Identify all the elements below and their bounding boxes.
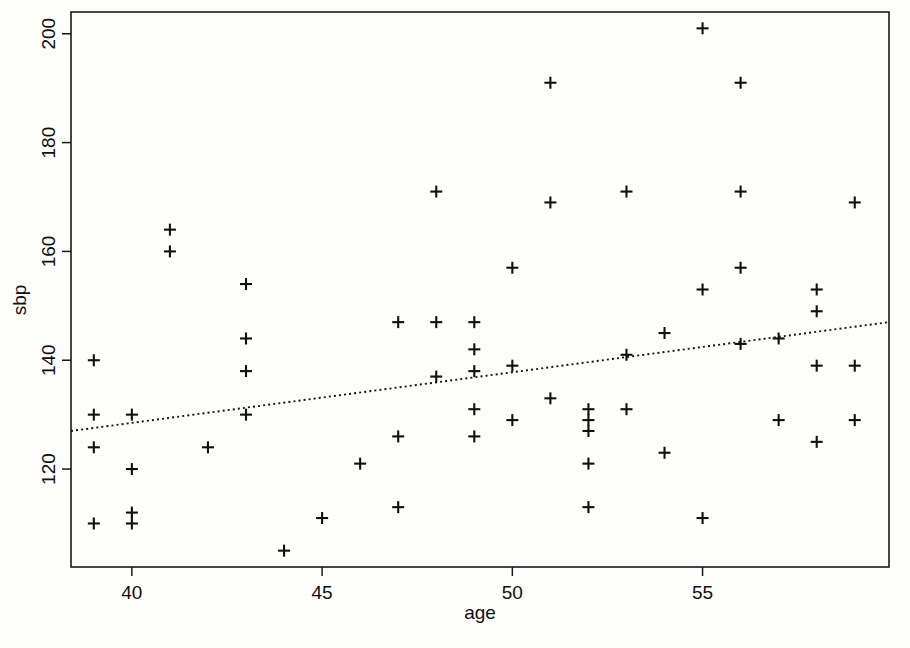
y-tick-label-120: 120 xyxy=(39,453,60,485)
data-point xyxy=(468,365,480,377)
data-point xyxy=(468,403,480,415)
data-point xyxy=(659,327,671,339)
data-point xyxy=(582,501,594,513)
data-point xyxy=(430,371,442,383)
data-point xyxy=(506,360,518,372)
data-point xyxy=(88,354,100,366)
data-point xyxy=(88,409,100,421)
plot-canvas: 40455055 120140160180200 age sbp xyxy=(0,0,910,648)
data-point xyxy=(126,409,138,421)
plot-frame xyxy=(71,12,889,567)
data-point xyxy=(88,441,100,453)
y-tick-label-160: 160 xyxy=(39,236,60,268)
data-point xyxy=(811,284,823,296)
data-point xyxy=(506,414,518,426)
x-axis-title: age xyxy=(464,602,496,623)
data-point xyxy=(468,430,480,442)
data-point xyxy=(697,284,709,296)
data-point xyxy=(164,224,176,236)
data-point xyxy=(582,414,594,426)
data-point xyxy=(544,392,556,404)
y-tick-label-200: 200 xyxy=(39,18,60,50)
data-point xyxy=(735,77,747,89)
data-point xyxy=(811,436,823,448)
data-point xyxy=(202,441,214,453)
x-axis-tick-labels: 40455055 xyxy=(121,582,713,603)
data-point xyxy=(126,517,138,529)
data-point xyxy=(735,262,747,274)
data-point xyxy=(88,517,100,529)
data-point xyxy=(240,332,252,344)
data-point xyxy=(430,186,442,198)
y-axis-tick-labels: 120140160180200 xyxy=(39,18,60,485)
data-point xyxy=(697,22,709,34)
data-point xyxy=(735,186,747,198)
y-axis-ticks xyxy=(62,34,71,469)
data-point xyxy=(773,332,785,344)
data-point xyxy=(240,409,252,421)
data-point xyxy=(697,512,709,524)
data-point xyxy=(126,507,138,519)
x-tick-label-50: 50 xyxy=(502,582,523,603)
data-point-markers xyxy=(88,22,861,556)
data-point xyxy=(468,343,480,355)
data-point xyxy=(126,463,138,475)
data-point xyxy=(582,425,594,437)
data-point xyxy=(582,458,594,470)
data-point xyxy=(620,403,632,415)
data-point xyxy=(811,305,823,317)
data-point xyxy=(582,403,594,415)
data-point xyxy=(430,316,442,328)
regression-fit-line xyxy=(71,322,889,431)
data-point xyxy=(240,278,252,290)
data-point xyxy=(392,501,404,513)
data-point xyxy=(278,545,290,557)
data-point xyxy=(849,414,861,426)
data-point xyxy=(735,338,747,350)
data-point xyxy=(620,186,632,198)
data-point xyxy=(544,77,556,89)
data-point xyxy=(354,458,366,470)
scatter-plot-figure: 40455055 120140160180200 age sbp xyxy=(0,0,910,648)
data-point xyxy=(506,262,518,274)
data-point xyxy=(620,349,632,361)
data-point xyxy=(659,447,671,459)
data-point xyxy=(392,316,404,328)
data-point xyxy=(240,365,252,377)
x-tick-label-40: 40 xyxy=(121,582,142,603)
y-tick-label-140: 140 xyxy=(39,344,60,376)
data-point xyxy=(164,245,176,257)
data-point xyxy=(811,360,823,372)
data-point xyxy=(392,430,404,442)
y-tick-label-180: 180 xyxy=(39,127,60,159)
data-point xyxy=(849,196,861,208)
data-point xyxy=(468,316,480,328)
data-point xyxy=(316,512,328,524)
data-point xyxy=(849,360,861,372)
x-axis-ticks xyxy=(132,567,703,576)
x-tick-label-55: 55 xyxy=(692,582,713,603)
x-tick-label-45: 45 xyxy=(312,582,333,603)
y-axis-title: sbp xyxy=(9,285,30,316)
data-point xyxy=(773,414,785,426)
data-point xyxy=(544,196,556,208)
